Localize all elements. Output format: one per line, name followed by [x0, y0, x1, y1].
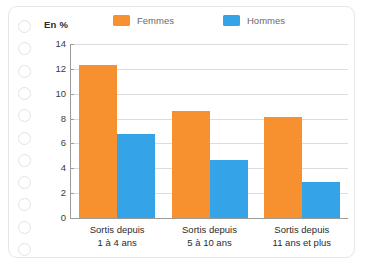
bar-hommes-3 — [302, 182, 340, 218]
y-axis-tick-mark — [70, 119, 74, 120]
blue-square-icon — [223, 15, 240, 26]
plot-area — [71, 44, 348, 218]
legend-label: Hommes — [247, 16, 285, 26]
bar-hommes-2 — [210, 160, 248, 218]
y-axis-tick-mark — [70, 44, 74, 45]
orange-square-icon — [113, 15, 130, 26]
y-axis-tick-mark — [70, 218, 74, 219]
bar-femmes-2 — [172, 111, 210, 218]
legend-item-hommes[interactable]: Hommes — [223, 15, 285, 26]
y-axis-tick-label: 4 — [42, 163, 66, 173]
y-axis-tick-label: 10 — [42, 89, 66, 99]
gridline — [71, 44, 348, 45]
y-axis-tick-label: 0 — [42, 213, 66, 223]
grouped-bar-chart: En % FemmesHommes 02468101214Sortis depu… — [0, 0, 365, 265]
chart-page: En % FemmesHommes 02468101214Sortis depu… — [0, 0, 365, 265]
y-axis-tick-mark — [70, 69, 74, 70]
category-label-line2: 11 ans et plus — [248, 237, 356, 250]
y-axis-tick-label: 12 — [42, 64, 66, 74]
x-axis-category-label-3: Sortis depuis11 ans et plus — [248, 224, 356, 249]
y-axis-tick-mark — [70, 168, 74, 169]
y-axis-tick-mark — [70, 94, 74, 95]
legend-item-femmes[interactable]: Femmes — [113, 15, 174, 26]
chart-legend: FemmesHommes — [0, 15, 365, 33]
y-axis-tick-mark — [70, 193, 74, 194]
y-axis-tick-label: 8 — [42, 114, 66, 124]
y-axis-tick-mark — [70, 143, 74, 144]
legend-label: Femmes — [137, 16, 174, 26]
bar-femmes-3 — [264, 117, 302, 218]
x-axis-baseline — [71, 218, 348, 219]
y-axis-tick-label: 2 — [42, 188, 66, 198]
y-axis-tick-label: 6 — [42, 138, 66, 148]
category-label-line1: Sortis depuis — [248, 224, 356, 237]
y-axis-tick-label: 14 — [42, 39, 66, 49]
bar-hommes-1 — [117, 134, 155, 219]
bar-femmes-1 — [79, 65, 117, 218]
